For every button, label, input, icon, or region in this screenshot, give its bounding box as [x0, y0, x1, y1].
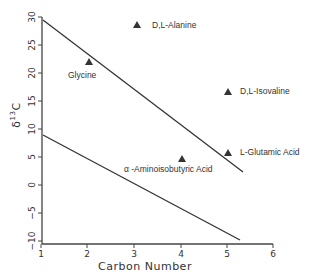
- svg-text:δ13C: δ13C: [9, 102, 23, 127]
- lower-trend-line: [43, 135, 240, 240]
- x-tick-label: 6: [270, 249, 276, 259]
- point-glycine-triangle-icon: [85, 58, 93, 65]
- y-tick-label: 30: [27, 11, 37, 23]
- label-glycine: Glycine: [68, 70, 97, 80]
- x-tick-label: 5: [224, 249, 230, 259]
- y-tick-label: 10: [27, 123, 37, 135]
- label-glutamic: L-Glutamic Acid: [240, 147, 300, 157]
- label-aib: α -Aminoisobutyric Acid: [124, 164, 213, 174]
- x-tick-label: 3: [131, 249, 137, 259]
- y-axis-title: δ13C: [9, 102, 23, 127]
- point-glutamic-triangle-icon: [224, 149, 232, 156]
- point-alanine-triangle-icon: [133, 21, 141, 28]
- y-tick-label: 25: [27, 39, 37, 50]
- point-aib-triangle-icon: [178, 155, 186, 162]
- x-tick-label: 1: [38, 249, 44, 259]
- y-axis-title-delta: δ: [10, 120, 23, 127]
- y-tick-label: −10: [27, 231, 37, 250]
- label-alanine: D,L-Alanine: [152, 20, 197, 30]
- carbon-isotope-chart: 30 25 20 15 10 5 0 −5 −10 1 2 3 4 5 6 Ca…: [0, 0, 323, 276]
- y-axis-title-c: C: [10, 102, 23, 110]
- x-tick-label: 2: [84, 249, 90, 259]
- y-tick-label: 5: [27, 154, 37, 160]
- point-isovaline-triangle-icon: [224, 88, 232, 95]
- x-tick-label: 4: [178, 249, 184, 259]
- upper-trend-line: [43, 20, 243, 172]
- label-isovaline: D,L-Isovaline: [240, 86, 290, 96]
- x-axis-title: Carbon Number: [98, 260, 192, 273]
- y-tick-label: −5: [27, 206, 37, 219]
- y-tick-label: 0: [27, 182, 37, 188]
- data-points: [85, 21, 232, 162]
- y-tick-label: 20: [27, 67, 37, 79]
- y-tick-labels: 30 25 20 15 10 5 0 −5 −10: [27, 11, 37, 250]
- x-tick-labels: 1 2 3 4 5 6: [38, 249, 276, 259]
- y-axis-title-sup: 13: [9, 111, 17, 121]
- y-tick-label: 15: [27, 95, 37, 106]
